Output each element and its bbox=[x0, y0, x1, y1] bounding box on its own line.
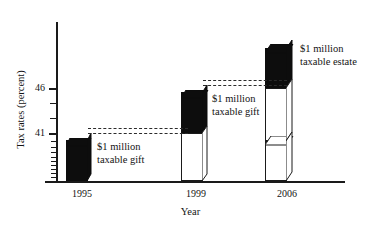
bar-1999-side-face bbox=[202, 85, 210, 181]
y-tick-minor bbox=[51, 177, 57, 178]
connector-1995-to-1999 bbox=[88, 128, 188, 134]
y-tick-minor bbox=[51, 173, 57, 174]
side-face-svg bbox=[202, 85, 210, 182]
annotation-1995-line2: taxable gift bbox=[97, 153, 145, 166]
bar-1995-side-face bbox=[87, 133, 93, 181]
annotation-1999-line1: $1 million bbox=[212, 92, 260, 105]
side-face-svg bbox=[87, 133, 93, 182]
connector-dash-lower bbox=[88, 133, 188, 134]
annotation-2006: $1 million taxable estate bbox=[300, 42, 357, 69]
connector-1999-to-2006 bbox=[203, 80, 287, 86]
y-tick-minor bbox=[50, 103, 57, 104]
annotation-1999-line2: taxable gift bbox=[212, 105, 260, 118]
x-axis-title: Year bbox=[0, 206, 381, 217]
annotation-2006-line1: $1 million bbox=[300, 42, 357, 55]
y-tick-46 bbox=[49, 88, 58, 90]
connector-dash-upper bbox=[203, 80, 287, 81]
y-tick-label-41: 41 bbox=[35, 128, 45, 138]
annotation-1999: $1 million taxable gift bbox=[212, 92, 260, 119]
y-tick-minor bbox=[51, 147, 57, 148]
annotation-1995: $1 million taxable gift bbox=[97, 140, 145, 167]
y-tick-minor bbox=[51, 165, 57, 166]
x-tick-label-2006: 2006 bbox=[257, 188, 317, 199]
annotation-2006-line2: taxable estate bbox=[300, 55, 357, 68]
side-face-svg bbox=[286, 40, 295, 182]
annotation-1995-line1: $1 million bbox=[97, 140, 145, 153]
bar-1995 bbox=[66, 133, 92, 181]
segment-front-face bbox=[265, 141, 287, 181]
connector-dash-upper bbox=[88, 128, 188, 129]
y-axis-title: Tax rates (percent) bbox=[15, 62, 26, 158]
connector-dash-lower bbox=[203, 85, 287, 86]
x-tick-label-1999: 1999 bbox=[166, 188, 226, 199]
x-tick-label-1995: 1995 bbox=[52, 188, 112, 199]
y-tick-41 bbox=[49, 133, 58, 135]
y-tick-minor bbox=[50, 118, 57, 119]
bar-2006-segment-base-white bbox=[265, 141, 287, 181]
y-tick-minor bbox=[51, 141, 57, 142]
y-tick-minor bbox=[51, 161, 57, 162]
bar-2006 bbox=[265, 40, 297, 181]
y-tick-minor bbox=[51, 169, 57, 170]
y-tick-minor bbox=[51, 152, 57, 153]
segment-front-face bbox=[181, 133, 203, 181]
y-tick-label-46: 46 bbox=[35, 83, 45, 93]
tax-rates-bar-chart: Tax rates (percent) 41 46 Year 1995 1999… bbox=[0, 0, 381, 231]
bar-2006-side-face bbox=[286, 40, 295, 181]
bar-1999-segment-base-white bbox=[181, 133, 203, 181]
y-tick-minor bbox=[51, 157, 57, 158]
